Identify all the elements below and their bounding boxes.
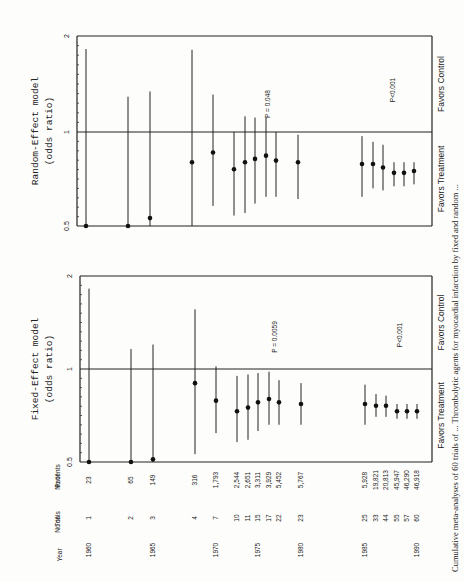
odds-ratio-point <box>277 400 282 405</box>
p-value-annotation: P = 0.0059 <box>271 321 278 353</box>
favors-treatment-label: Favors Treatment <box>436 145 446 212</box>
table-row: 1975153,311 <box>254 472 261 558</box>
trials-cell: 7 <box>212 516 219 520</box>
y-tick-label: 2 <box>66 274 73 278</box>
odds-ratio-point <box>214 398 219 403</box>
odds-ratio-point <box>148 216 153 221</box>
forest-row <box>381 145 386 191</box>
table-row: 1985255,928 <box>361 471 368 557</box>
patients-cell: 45,947 <box>393 470 400 490</box>
favors-control-label: Favors Control <box>436 56 446 112</box>
year-header: Year <box>56 548 63 562</box>
patients-cell: 2,651 <box>244 471 251 488</box>
odds-ratio-point <box>374 404 379 409</box>
trials-cell: 2 <box>127 516 134 520</box>
odds-ratio-point <box>264 153 269 158</box>
forest-row <box>232 132 237 216</box>
forest-row <box>412 162 417 184</box>
forest-row <box>360 136 365 197</box>
y-tick-label: 0.5 <box>63 221 70 231</box>
year-cell: 1990 <box>413 542 420 557</box>
odds-ratio-point <box>193 381 198 386</box>
year-cell: 1970 <box>212 542 219 557</box>
table-row: 3319,821 <box>372 470 379 522</box>
patients-cell: 5,452 <box>275 471 282 488</box>
forest-row <box>253 118 258 204</box>
odds-ratio-point <box>235 409 240 414</box>
table-row: 225,452 <box>275 471 282 521</box>
patients-cell: 65 <box>127 476 134 484</box>
odds-ratio-point <box>415 409 420 414</box>
y-tick-label: 1 <box>63 130 70 134</box>
patients-cell: 2,544 <box>233 471 240 488</box>
forest-row <box>274 132 279 197</box>
odds-ratio-point <box>395 409 400 414</box>
trials-cell: 57 <box>403 514 410 522</box>
patients-cell: 1,793 <box>212 471 219 488</box>
odds-ratio-point <box>299 402 304 407</box>
table-row: 19906046,918 <box>413 470 420 558</box>
odds-ratio-point <box>126 224 131 229</box>
trials-cell: 4 <box>191 516 198 520</box>
table-row: 4420,813 <box>382 470 389 522</box>
odds-ratio-point <box>402 171 407 176</box>
odds-ratio-point <box>274 158 279 163</box>
panel-subtitle: (odds ratio) <box>44 335 55 403</box>
y-tick-label: 1 <box>66 367 73 371</box>
panel-subtitle: (odds ratio) <box>44 97 55 165</box>
odds-ratio-point <box>246 405 251 410</box>
forest-row <box>395 404 400 419</box>
patients-cell: 3,929 <box>265 471 272 488</box>
forest-plot-figure: 210.5Random-Effect model(odds ratio)P = … <box>0 0 464 582</box>
forest-row <box>84 49 89 228</box>
trials-cell: 60 <box>413 514 420 522</box>
forest-row <box>405 404 410 419</box>
table-row: 5545,947 <box>393 470 400 522</box>
forest-row <box>415 404 420 419</box>
forest-row <box>374 394 379 417</box>
trials-cell: 1 <box>85 516 92 520</box>
panel-title: Fixed-Effect model <box>30 317 41 420</box>
odds-ratio-point <box>129 460 134 465</box>
favors-control-label: Favors Control <box>436 295 446 351</box>
panel-title: Random-Effect model <box>30 77 41 186</box>
year-cell: 1985 <box>361 542 368 557</box>
odds-ratio-point <box>211 150 216 155</box>
odds-ratio-point <box>253 157 258 162</box>
trials-cell: 23 <box>297 514 304 522</box>
trials-cell: 10 <box>233 514 240 522</box>
study-table: YearNo ofTrialsNo ofPatients196012326519… <box>54 464 420 562</box>
p-value-annotation: P = 0.048 <box>264 90 271 118</box>
odds-ratio-point <box>412 169 417 174</box>
figure-caption: Cumulative meta-analyses of 60 trials of… <box>450 184 460 572</box>
forest-row <box>246 374 251 439</box>
patients-cell: 20,813 <box>382 470 389 490</box>
table-row: 1960123 <box>85 476 92 557</box>
p-value-annotation: P<0.001 <box>396 322 403 347</box>
forest-row <box>256 373 261 431</box>
table-row: 265 <box>127 476 134 520</box>
patients-cell: 3,311 <box>254 472 261 488</box>
forest-row <box>193 309 198 454</box>
table-row: 4316 <box>191 474 198 520</box>
forest-row <box>190 50 195 226</box>
patients-cell: 46,290 <box>403 470 410 490</box>
forest-row <box>129 349 134 464</box>
table-row: 19653149 <box>149 474 156 557</box>
odds-ratio-point <box>84 224 89 229</box>
odds-ratio-point <box>151 457 156 462</box>
random-effect-panel: 210.5Random-Effect model(odds ratio)P = … <box>30 34 446 231</box>
odds-ratio-point <box>360 162 365 167</box>
figure-page: 210.5Random-Effect model(odds ratio)P = … <box>0 0 464 582</box>
forest-row <box>87 289 92 465</box>
odds-ratio-point <box>256 400 261 405</box>
year-cell: 1975 <box>254 542 261 557</box>
table-row: 173,929 <box>265 471 272 521</box>
forest-row <box>277 380 282 425</box>
patients-header: Patients <box>54 464 61 488</box>
forest-row <box>243 116 248 213</box>
forest-row <box>267 372 272 425</box>
table-row: 197071,793 <box>212 471 219 557</box>
forest-row <box>151 345 156 462</box>
odds-ratio-point <box>267 397 272 402</box>
